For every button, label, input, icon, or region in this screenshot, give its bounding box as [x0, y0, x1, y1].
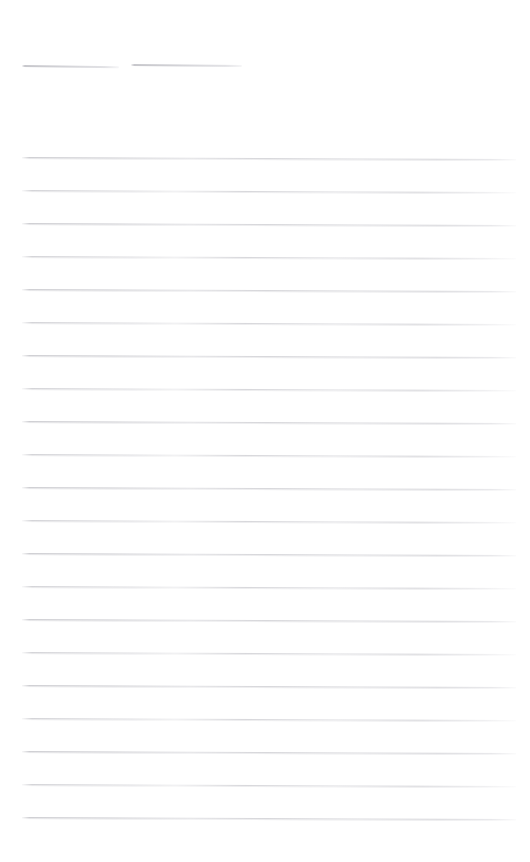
rule-ink [22, 454, 516, 458]
body-rule [22, 553, 516, 557]
rule-ink [22, 355, 516, 359]
rule-ink [22, 223, 516, 227]
body-rule [22, 421, 516, 425]
body-rule [22, 817, 516, 821]
document-page [0, 0, 530, 862]
rule-ink [22, 322, 516, 326]
rule-ink [22, 421, 516, 425]
rule-ink [22, 520, 516, 524]
body-rule [22, 289, 516, 293]
rule-ink [22, 256, 516, 260]
body-rule [22, 685, 516, 689]
rule-ink [22, 289, 516, 293]
body-rule [22, 751, 516, 755]
body-rule [22, 520, 516, 524]
body-rule [22, 388, 516, 392]
body-rule [22, 454, 516, 458]
body-rule [22, 355, 516, 359]
body-rule [22, 487, 516, 491]
body-rule [22, 784, 516, 788]
rule-ink [22, 817, 516, 821]
rule-ink [22, 784, 516, 788]
body-rule [22, 586, 516, 590]
body-rule [22, 223, 516, 227]
rule-ink [22, 751, 516, 755]
body-rule [22, 322, 516, 326]
body-rule [22, 256, 516, 260]
body-rule-group [0, 0, 530, 862]
rule-ink [22, 718, 516, 722]
rule-ink [22, 190, 516, 194]
body-rule [22, 718, 516, 722]
rule-ink [22, 553, 516, 557]
rule-ink [22, 652, 516, 656]
rule-ink [22, 619, 516, 623]
body-rule [22, 157, 516, 161]
body-rule [22, 190, 516, 194]
body-rule [22, 652, 516, 656]
body-rule [22, 619, 516, 623]
rule-ink [22, 157, 516, 161]
rule-ink [22, 487, 516, 491]
rule-ink [22, 586, 516, 590]
rule-ink [22, 685, 516, 689]
rule-ink [22, 388, 516, 392]
